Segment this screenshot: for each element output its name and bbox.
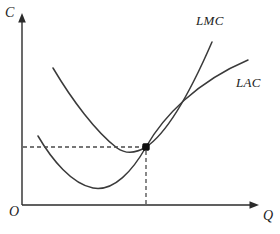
diagram-canvas	[0, 0, 280, 234]
lac-curve-label: LAC	[236, 76, 261, 89]
x-axis-label: Q	[263, 209, 273, 223]
lac-curve	[38, 60, 248, 188]
origin-label: O	[9, 205, 19, 219]
cost-curve-diagram: C O Q LMC LAC	[0, 0, 280, 234]
y-axis-label: C	[5, 6, 14, 20]
tangency-point-marker	[143, 144, 150, 151]
y-axis-arrow-icon	[18, 13, 26, 23]
x-axis-arrow-icon	[250, 201, 260, 209]
lmc-curve-label: LMC	[196, 14, 224, 27]
